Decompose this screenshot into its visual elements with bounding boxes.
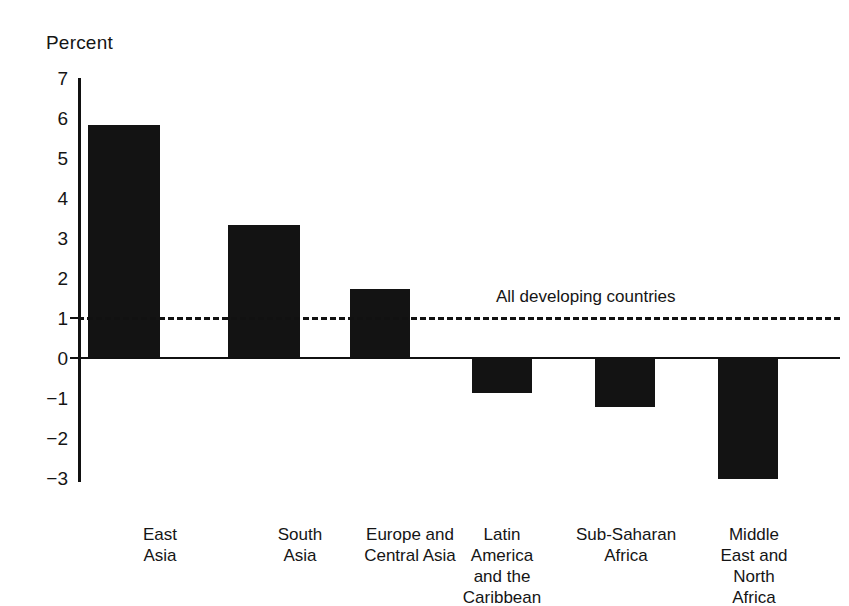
y-axis-tick-labels: 7 6 5 4 3 2 1 0 −1 −2 −3 [28,78,68,482]
y-tick-label-5: 5 [28,149,68,168]
bar-south-asia [228,225,300,357]
y-tick-label-0: 0 [28,349,68,368]
plot-area: All developing countries [78,78,840,482]
x-label-latin-america-line-4: Caribbean [426,587,578,606]
x-label-latin-america-line-3: and the [426,566,578,587]
y-tick-label-3: 3 [28,229,68,248]
y-tick-label-2: 2 [28,269,68,288]
bar-sub-saharan-africa [595,359,655,407]
reference-line-label: All developing countries [496,287,676,307]
bar-east-asia [88,125,160,357]
y-axis-title: Percent [46,32,113,54]
bar-latin-america-and-the-caribbean [472,359,532,393]
x-label-middle-east-and-north-africa: Middle East and North Africa [678,524,830,606]
bar-chart: Percent 7 6 5 4 3 2 1 0 −1 −2 −3 All dev… [0,0,849,606]
x-label-middle-east-line-3: North [678,566,830,587]
y-tick-label-6: 6 [28,109,68,128]
bar-europe-and-central-asia [350,289,410,357]
reference-line-all-developing-countries [78,317,840,320]
x-label-middle-east-line-4: Africa [678,587,830,606]
y-tick-label-neg3: −3 [28,469,68,488]
y-tick-label-7: 7 [28,69,68,88]
y-tick-label-neg2: −2 [28,429,68,448]
zero-baseline [78,357,840,359]
x-axis-category-labels: East Asia South Asia Europe and Central … [78,524,849,606]
y-tick-label-4: 4 [28,189,68,208]
y-tick-label-neg1: −1 [28,389,68,408]
y-axis-spine [78,78,81,482]
x-label-middle-east-line-2: East and [678,545,830,566]
x-label-middle-east-line-1: Middle [678,524,830,545]
bar-middle-east-and-north-africa [718,359,778,479]
y-tick-label-1: 1 [28,309,68,328]
